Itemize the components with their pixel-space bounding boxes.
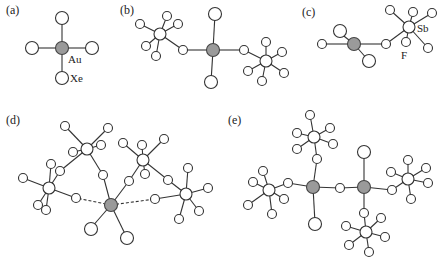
au-atom	[105, 199, 118, 212]
sb-atom	[403, 21, 415, 33]
sb-atom	[260, 55, 272, 67]
sb-atom	[402, 173, 414, 185]
xe-label: Xe	[70, 72, 83, 84]
xe-atom	[56, 12, 69, 25]
sb-atom	[154, 28, 166, 40]
au-atom	[348, 38, 361, 51]
xe-atom	[205, 76, 218, 89]
au-atom	[56, 42, 69, 55]
molecular-structures-figure: (a) Au Xe (b)	[0, 0, 442, 263]
xe-atom	[209, 8, 222, 21]
f-atom	[240, 46, 249, 55]
panel-b-label: (b)	[120, 3, 134, 17]
sb-atom	[308, 131, 320, 143]
f-atom	[382, 40, 391, 49]
panel-e-label: (e)	[228, 113, 241, 127]
au-label: Au	[68, 53, 82, 65]
sb-atom	[43, 182, 55, 194]
panel-d-label: (d)	[6, 113, 20, 127]
xe-atom	[334, 25, 347, 38]
sb-atom	[81, 143, 93, 155]
xe-atom	[26, 42, 39, 55]
panel-c-label: (c)	[302, 5, 315, 19]
xe-atom	[85, 223, 98, 236]
xe-atom	[363, 55, 376, 68]
xe-atom	[309, 218, 322, 231]
sb-label: Sb	[417, 22, 429, 34]
au-atom	[358, 181, 371, 194]
panel-e: (e)	[228, 111, 433, 257]
au-atom	[307, 181, 320, 194]
panel-a-label: (a)	[6, 3, 19, 17]
au-atom	[207, 44, 220, 57]
xe-atom	[86, 42, 99, 55]
sb-atom	[180, 188, 192, 200]
f-atom	[179, 46, 188, 55]
sb-atom	[263, 184, 275, 196]
xe-atom	[56, 72, 69, 85]
panel-d: (d)	[6, 113, 213, 245]
sb-atom	[137, 154, 149, 166]
panel-a: (a) Au Xe	[6, 3, 99, 85]
f-label: F	[401, 49, 407, 61]
sb-atom	[360, 226, 372, 238]
f-atom	[336, 184, 345, 193]
xe-atom	[358, 146, 371, 159]
panel-c: (c) Sb F	[302, 5, 437, 68]
f-atom	[318, 40, 327, 49]
xe-atom	[121, 232, 134, 245]
panel-b: (b)	[120, 3, 289, 89]
